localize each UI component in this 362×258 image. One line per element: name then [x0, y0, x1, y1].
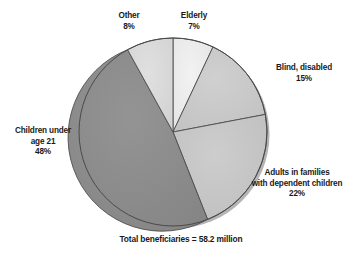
pie-chart-figure: Other 8% Elderly 7% Blind, disabled 15% … — [0, 0, 362, 258]
slice-label-adults-name-line1: Adults in families — [235, 168, 359, 179]
slice-label-other-percent: 8% — [101, 22, 157, 33]
chart-total-caption: Total beneficiaries = 58.2 million — [81, 234, 281, 245]
slice-label-blind-disabled-name: Blind, disabled — [252, 63, 356, 74]
slice-label-elderly-percent: 7% — [166, 22, 222, 33]
slice-label-children-percent: 48% — [5, 147, 81, 158]
slice-label-blind-disabled: Blind, disabled 15% — [252, 63, 356, 84]
slice-label-children-name-line2: age 21 — [5, 137, 81, 148]
slice-label-other-name: Other — [101, 11, 157, 22]
slice-label-elderly: Elderly 7% — [166, 11, 222, 32]
slice-label-children-under-21: Children under age 21 48% — [5, 126, 81, 158]
slice-label-children-name-line1: Children under — [5, 126, 81, 137]
slice-label-adults-percent: 22% — [235, 189, 359, 200]
slice-label-other: Other 8% — [101, 11, 157, 32]
slice-label-adults-name-line2: with dependent children — [235, 179, 359, 190]
slice-label-elderly-name: Elderly — [166, 11, 222, 22]
slice-label-adults-in-families: Adults in families with dependent childr… — [235, 168, 359, 200]
slice-label-blind-disabled-percent: 15% — [252, 74, 356, 85]
